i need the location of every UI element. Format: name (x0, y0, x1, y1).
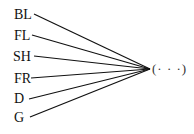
node-fl: FL (14, 29, 30, 43)
target-node: (· · ·) (152, 62, 187, 76)
node-bl: BL (14, 8, 32, 22)
node-fr: FR (14, 72, 31, 86)
edge-bl (34, 14, 150, 69)
node-g: G (14, 111, 24, 125)
node-sh: SH (13, 50, 31, 64)
edge-fl (32, 35, 150, 69)
edge-sh (34, 56, 150, 69)
node-d: D (14, 92, 24, 106)
